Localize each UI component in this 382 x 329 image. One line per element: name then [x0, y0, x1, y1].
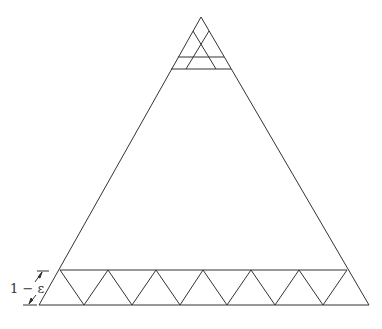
- outer-triangle: [39, 17, 369, 305]
- dimension-label: 1 − ε: [10, 281, 44, 296]
- apex-subdivision: [171, 31, 231, 69]
- bottom-strip: [60, 270, 347, 305]
- triangle-diagram: 1 − ε: [0, 0, 382, 329]
